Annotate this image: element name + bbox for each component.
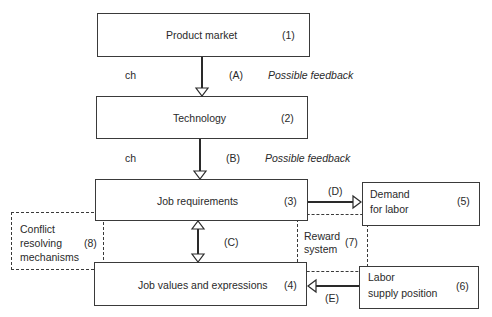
edge-a-label: (A) bbox=[229, 69, 243, 82]
edge-b-note: Possible feedback bbox=[265, 152, 350, 165]
reward-system-label-line2: system bbox=[304, 243, 337, 256]
technology-label: Technology bbox=[173, 112, 226, 125]
edge-c-label: (C) bbox=[224, 236, 239, 249]
reward-system-number: (7) bbox=[345, 236, 358, 249]
edge-a-side-label: ch bbox=[125, 69, 136, 82]
labor-supply-label-line1: Labor bbox=[368, 271, 395, 284]
job-values-label: Job values and expressions bbox=[138, 279, 268, 292]
edge-b-side-label: ch bbox=[125, 152, 136, 165]
product-market-label: Product market bbox=[166, 29, 237, 42]
edge-e-label: (E) bbox=[325, 292, 339, 305]
edge-a-note: Possible feedback bbox=[268, 69, 353, 82]
job-requirements-number: (3) bbox=[284, 195, 297, 208]
arrow-b bbox=[194, 139, 206, 179]
arrow-c bbox=[192, 221, 204, 262]
demand-for-labor-number: (5) bbox=[457, 195, 470, 208]
edge-d-label: (D) bbox=[328, 185, 343, 198]
arrow-e bbox=[308, 280, 359, 292]
arrow-a bbox=[196, 57, 208, 96]
demand-for-labor-label-line1: Demand bbox=[370, 188, 410, 201]
conflict-label-line1: Conflict bbox=[20, 223, 55, 236]
labor-supply-number: (6) bbox=[456, 280, 469, 293]
demand-for-labor-label-line2: for labor bbox=[370, 203, 409, 216]
job-requirements-label: Job requirements bbox=[157, 195, 238, 208]
reward-system-label-line1: Reward bbox=[304, 230, 340, 243]
conflict-label-line3: mechanisms bbox=[20, 251, 79, 264]
product-market-number: (1) bbox=[282, 29, 295, 42]
labor-supply-label-line2: supply position bbox=[368, 287, 437, 300]
technology-number: (2) bbox=[281, 112, 294, 125]
job-values-number: (4) bbox=[284, 279, 297, 292]
conflict-number: (8) bbox=[84, 237, 97, 250]
edge-b-label: (B) bbox=[226, 152, 240, 165]
conflict-label-line2: resolving bbox=[20, 237, 62, 250]
